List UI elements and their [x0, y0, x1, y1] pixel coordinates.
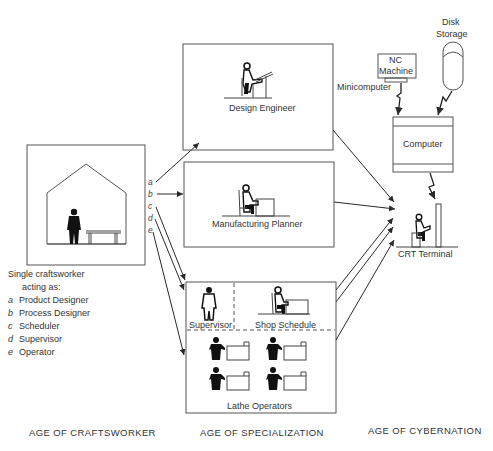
shop-schedule-figure-icon: [258, 287, 310, 314]
minicomputer-label: Minicomputer: [337, 82, 391, 93]
role-letter-c: c: [148, 201, 152, 211]
design-engineer-figure-icon: [224, 63, 273, 98]
lathe-operator-figures-icon: [209, 337, 306, 390]
role-letter-e: e: [148, 225, 153, 235]
nc-machine-label-line2: Machine: [379, 66, 413, 77]
era-specialization-caption: AGE OF SPECIALIZATION: [200, 427, 324, 438]
legend-item-product-designer: aProduct Designer: [8, 294, 90, 307]
nc-machine-label-line1: NC: [389, 55, 402, 66]
legend-item-supervisor: dSupervisor: [8, 333, 90, 346]
era-craftsworker-caption: AGE OF CRAFTSWORKER: [29, 427, 156, 438]
legend-caption-line1: Single craftsworker: [8, 268, 90, 281]
specialization-to-crt-arrows: [333, 130, 395, 340]
disk-storage-icon: [443, 42, 463, 90]
role-letter-b: b: [148, 189, 153, 199]
supervisor-figure-icon: [202, 287, 216, 320]
workshop-house-icon: [47, 164, 126, 244]
manufacturing-planner-box: [184, 162, 334, 247]
disk-storage-label-line1: Disk: [442, 17, 460, 28]
manufacturing-planner-figure-icon: [222, 185, 290, 216]
craftsworker-figure-icon: [67, 209, 81, 244]
disk-storage-label-line2: Storage: [436, 29, 468, 40]
legend-caption-line2: acting as:: [8, 281, 90, 294]
shop-floor-box: [186, 282, 336, 413]
craftsworker-panel: [27, 145, 145, 265]
legend-item-process-designer: bProcess Designer: [8, 307, 90, 320]
workbench-icon: [86, 231, 121, 244]
role-letter-a: a: [148, 177, 153, 187]
shop-schedule-label: Shop Schedule: [255, 320, 316, 331]
manufacturing-planner-label: Manufacturing Planner: [212, 219, 303, 230]
role-letter-d: d: [148, 213, 153, 223]
lathe-operators-label: Lathe Operators: [227, 401, 292, 412]
legend-item-scheduler: cScheduler: [8, 320, 90, 333]
crt-terminal-icon: [396, 204, 458, 247]
crt-terminal-label: CRT Terminal: [398, 249, 453, 260]
era-cybernation-caption: AGE OF CYBERNATION: [368, 425, 482, 436]
craftsworker-legend: Single craftsworker acting as: aProduct …: [8, 268, 90, 359]
design-engineer-label: Design Engineer: [229, 103, 296, 114]
design-engineer-box: [183, 44, 333, 150]
legend-item-operator: eOperator: [8, 346, 90, 359]
supervisor-label: Supervisor: [189, 320, 232, 331]
computer-label: Computer: [403, 139, 443, 150]
